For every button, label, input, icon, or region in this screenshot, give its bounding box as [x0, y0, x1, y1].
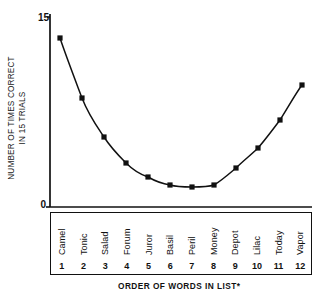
data-point-1	[57, 35, 62, 40]
word-label: Salad	[100, 231, 110, 255]
word-label: Basil	[165, 235, 175, 255]
word-number: 5	[138, 261, 160, 271]
word-cell: Tonic	[73, 213, 95, 257]
word-number: 9	[224, 261, 246, 271]
word-label: Today	[274, 230, 284, 255]
data-point-12	[299, 82, 304, 87]
word-number: 4	[116, 261, 138, 271]
word-list-table: Camel Tonic Salad Forum Juror Basil Peri…	[50, 212, 312, 275]
data-point-11	[277, 117, 282, 122]
word-cell: Money	[203, 213, 225, 257]
x-axis-title: ORDER OF WORDS IN LIST*	[118, 281, 240, 291]
data-point-7	[189, 184, 194, 189]
word-label: Depot	[230, 230, 240, 255]
word-number: 8	[203, 261, 225, 271]
word-cell: Lilac	[246, 213, 268, 257]
data-line-series	[60, 38, 302, 187]
data-point-6	[167, 182, 172, 187]
word-cell: Forum	[116, 213, 138, 257]
word-number: 7	[181, 261, 203, 271]
data-point-4	[123, 160, 128, 165]
word-cell: Vapor	[289, 213, 311, 257]
word-cell: Depot	[224, 213, 246, 257]
word-number: 1	[51, 261, 73, 271]
word-cell: Basil	[159, 213, 181, 257]
data-point-5	[145, 174, 150, 179]
word-label-row: Camel Tonic Salad Forum Juror Basil Peri…	[51, 213, 311, 257]
word-label: Tonic	[79, 233, 89, 255]
data-point-markers	[57, 35, 304, 189]
word-label: Juror	[144, 234, 154, 255]
word-cell: Camel	[51, 213, 73, 257]
word-label: Lilac	[252, 236, 262, 255]
word-cell: Salad	[94, 213, 116, 257]
word-number: 2	[73, 261, 95, 271]
data-point-10	[255, 145, 260, 150]
data-point-9	[233, 165, 238, 170]
word-label: Money	[209, 227, 219, 255]
word-number: 10	[246, 261, 268, 271]
word-number: 11	[268, 261, 290, 271]
word-label: Forum	[122, 228, 132, 255]
data-point-3	[101, 134, 106, 139]
word-number: 12	[289, 261, 311, 271]
data-point-8	[211, 182, 216, 187]
data-point-2	[79, 95, 84, 100]
word-cell: Juror	[138, 213, 160, 257]
word-cell: Peril	[181, 213, 203, 257]
word-number-row: 1 2 3 4 5 6 7 8 9 10 11 12	[51, 257, 311, 274]
serial-position-chart-figure: NUMBER OF TIMES CORRECT IN 15 TRIALS 15 …	[0, 0, 320, 305]
word-cell: Today	[268, 213, 290, 257]
word-label: Vapor	[295, 231, 305, 255]
word-number: 6	[159, 261, 181, 271]
word-label: Camel	[57, 228, 67, 255]
word-number: 3	[94, 261, 116, 271]
word-label: Peril	[187, 236, 197, 255]
